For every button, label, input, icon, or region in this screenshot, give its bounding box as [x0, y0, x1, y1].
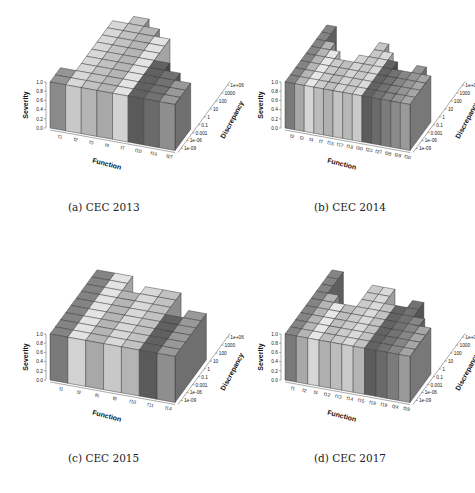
- svg-text:f2: f2: [290, 134, 295, 140]
- svg-text:0.001: 0.001: [196, 131, 208, 136]
- svg-text:Function: Function: [327, 409, 357, 423]
- svg-text:f27: f27: [375, 149, 383, 155]
- svg-text:0.2: 0.2: [36, 369, 43, 374]
- svg-text:f13: f13: [335, 394, 343, 400]
- svg-text:1: 1: [207, 367, 210, 372]
- svg-text:0.8: 0.8: [36, 341, 43, 346]
- svg-text:Severity: Severity: [22, 91, 30, 118]
- svg-text:1e-09: 1e-09: [419, 146, 432, 151]
- svg-text:1000: 1000: [460, 91, 471, 96]
- svg-text:f28: f28: [384, 151, 392, 157]
- svg-text:0.0: 0.0: [271, 378, 278, 383]
- svg-text:f10: f10: [134, 148, 142, 154]
- svg-text:1000: 1000: [225, 343, 236, 348]
- svg-text:0.2: 0.2: [271, 369, 278, 374]
- svg-text:f17: f17: [336, 142, 344, 148]
- svg-text:0.1: 0.1: [436, 123, 443, 128]
- svg-text:0.001: 0.001: [431, 131, 443, 136]
- svg-text:0.6: 0.6: [271, 350, 278, 355]
- caption-cec2013: (a) CEC 2013: [68, 201, 140, 213]
- svg-text:0.2: 0.2: [36, 117, 43, 122]
- svg-text:Discrepancy: Discrepancy: [219, 352, 246, 393]
- caption-cec2014: (b) CEC 2014: [314, 201, 386, 213]
- svg-text:f4: f4: [105, 143, 110, 149]
- svg-text:f20: f20: [356, 145, 364, 151]
- svg-text:Discrepancy: Discrepancy: [454, 352, 475, 393]
- svg-text:f15: f15: [327, 140, 335, 146]
- svg-text:100: 100: [219, 351, 227, 356]
- svg-text:1e+06: 1e+06: [465, 83, 475, 88]
- svg-text:0.6: 0.6: [36, 98, 43, 103]
- svg-text:1: 1: [442, 115, 445, 120]
- svg-text:Severity: Severity: [22, 343, 30, 370]
- svg-text:f11: f11: [147, 402, 155, 408]
- svg-text:0.8: 0.8: [271, 341, 278, 346]
- svg-text:f19: f19: [380, 402, 388, 408]
- svg-text:1.0: 1.0: [36, 80, 43, 85]
- bar3d-plot: 0.00.20.40.60.81.0Severityf1f2f6f8f10f11…: [10, 240, 240, 450]
- svg-text:0.0: 0.0: [36, 378, 43, 383]
- svg-text:10: 10: [213, 107, 219, 112]
- svg-text:100: 100: [454, 99, 462, 104]
- svg-text:1: 1: [442, 367, 445, 372]
- svg-text:1e-09: 1e-09: [184, 146, 197, 151]
- svg-text:f30: f30: [404, 154, 412, 160]
- svg-text:1000: 1000: [460, 343, 471, 348]
- svg-text:f8: f8: [112, 396, 117, 402]
- svg-text:1e-06: 1e-06: [425, 138, 438, 143]
- svg-text:Severity: Severity: [257, 343, 265, 370]
- svg-text:100: 100: [454, 351, 462, 356]
- caption-cec2015: (c) CEC 2015: [68, 452, 139, 464]
- svg-text:100: 100: [219, 99, 227, 104]
- svg-text:0.4: 0.4: [271, 107, 278, 112]
- svg-text:0.8: 0.8: [36, 89, 43, 94]
- svg-text:10: 10: [448, 359, 454, 364]
- svg-text:0.1: 0.1: [201, 123, 208, 128]
- svg-text:1.0: 1.0: [271, 80, 278, 85]
- svg-text:f12: f12: [323, 392, 331, 398]
- svg-text:f18: f18: [346, 144, 354, 150]
- svg-text:0.1: 0.1: [201, 375, 208, 380]
- svg-text:10: 10: [448, 107, 454, 112]
- svg-text:1000: 1000: [225, 91, 236, 96]
- svg-text:f29: f29: [394, 152, 402, 158]
- bar3d-plot: 0.00.20.40.60.81.0Severityf1f2f4f12f13f1…: [245, 240, 475, 450]
- svg-text:f1: f1: [58, 134, 63, 140]
- svg-text:10: 10: [213, 359, 219, 364]
- svg-text:0.001: 0.001: [196, 383, 208, 388]
- svg-text:f2: f2: [73, 137, 78, 143]
- svg-text:Discrepancy: Discrepancy: [219, 100, 246, 141]
- svg-text:f28: f28: [403, 406, 411, 412]
- svg-text:1e-09: 1e-09: [419, 398, 432, 403]
- svg-text:0.6: 0.6: [36, 350, 43, 355]
- svg-text:1e+06: 1e+06: [465, 335, 475, 340]
- svg-text:Function: Function: [92, 157, 122, 171]
- svg-text:f14: f14: [346, 396, 354, 402]
- svg-text:1e-06: 1e-06: [190, 390, 203, 395]
- svg-text:f24: f24: [391, 404, 399, 410]
- bar3d-plot: 0.00.20.40.60.81.0Severityf2f3f4f7f15f17…: [245, 0, 475, 195]
- svg-text:f7: f7: [120, 145, 125, 151]
- svg-text:Discrepancy: Discrepancy: [454, 100, 475, 141]
- svg-text:0.8: 0.8: [271, 89, 278, 94]
- svg-text:Function: Function: [327, 157, 357, 171]
- svg-text:f23: f23: [365, 147, 373, 153]
- svg-text:Function: Function: [92, 409, 122, 423]
- svg-text:f3: f3: [89, 140, 94, 146]
- bar3d-plot: 0.00.20.40.60.81.0Severityf1f2f3f4f7f10f…: [10, 0, 240, 195]
- svg-text:1.0: 1.0: [36, 332, 43, 337]
- svg-text:0.0: 0.0: [36, 126, 43, 131]
- svg-text:f7: f7: [318, 139, 323, 145]
- svg-text:f1: f1: [291, 386, 296, 392]
- svg-text:f10: f10: [129, 399, 137, 405]
- svg-text:1: 1: [207, 115, 210, 120]
- svg-text:f4: f4: [313, 390, 318, 396]
- svg-text:f2: f2: [302, 388, 307, 394]
- svg-text:f14: f14: [165, 405, 173, 411]
- svg-text:f2: f2: [77, 389, 82, 395]
- svg-text:1e+06: 1e+06: [230, 335, 244, 340]
- svg-text:0.6: 0.6: [271, 98, 278, 103]
- svg-text:Severity: Severity: [257, 91, 265, 118]
- svg-text:f18: f18: [369, 400, 377, 406]
- svg-text:0.2: 0.2: [271, 117, 278, 122]
